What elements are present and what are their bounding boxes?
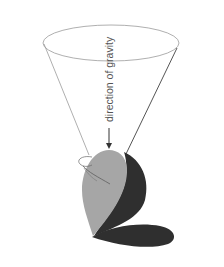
gravity-diagram: direction of gravity (0, 0, 224, 267)
cone-left-side (44, 44, 89, 155)
gravity-label: direction of gravity (103, 36, 115, 122)
gravity-arrow-head-icon (106, 143, 112, 149)
cone-right-side (126, 48, 177, 154)
